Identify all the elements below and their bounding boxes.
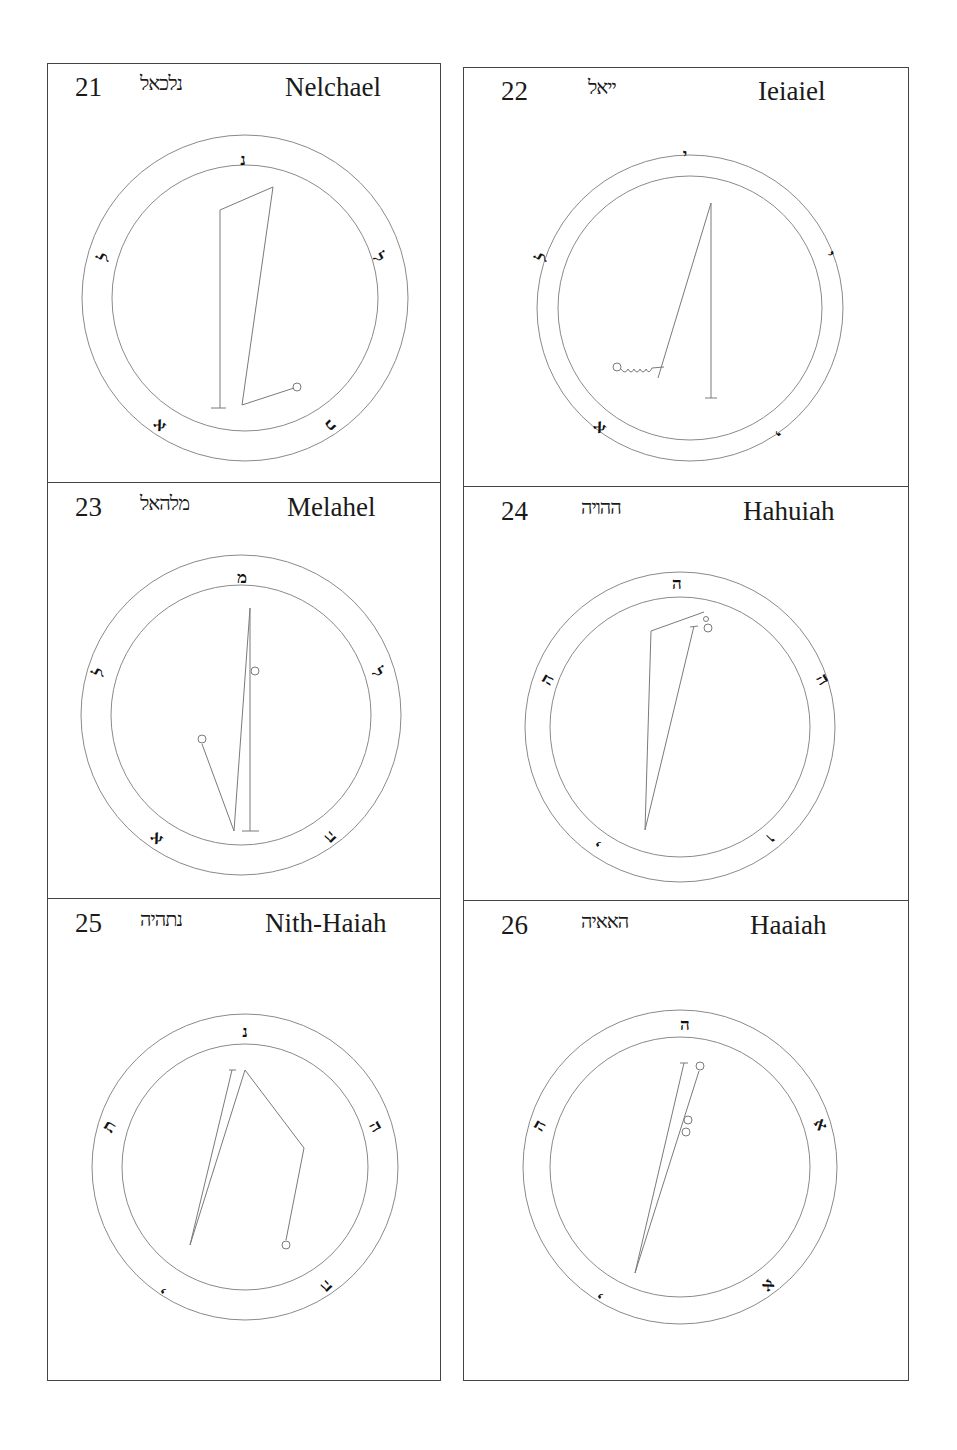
angel-number: 25 <box>75 908 102 939</box>
hebrew-name: מלהאל <box>140 491 189 515</box>
angel-name: Melahel <box>287 492 375 523</box>
angel-name: Ieiaiel <box>758 76 825 107</box>
hebrew-name: האאיה <box>581 909 628 933</box>
panel-header: 24 ההויה Hahuiah <box>463 487 909 537</box>
panel-header: 26 האאיה Haaiah <box>463 901 909 951</box>
angel-name: Haaiah <box>750 910 826 941</box>
hebrew-name: ההויה <box>581 495 621 519</box>
sigil-plate-page: 21 נלכאל Nelchael 22 ייאל Ieiaiel 23 מלה… <box>0 0 957 1450</box>
hebrew-name: נלכאל <box>140 71 182 95</box>
angel-number: 23 <box>75 492 102 523</box>
panel-header: 22 ייאל Ieiaiel <box>463 67 909 117</box>
panel-21: 21 נלכאל Nelchael <box>47 63 441 482</box>
panel-23: 23 מלהאל Melahel <box>47 482 441 898</box>
angel-number: 21 <box>75 72 102 103</box>
hebrew-name: נתהיה <box>140 907 182 931</box>
panel-24: 24 ההויה Hahuiah <box>463 486 909 900</box>
panel-22: 22 ייאל Ieiaiel <box>463 67 909 486</box>
panel-header: 21 נלכאל Nelchael <box>47 63 441 113</box>
panel-25: 25 נתהיה Nith-Haiah <box>47 898 441 1381</box>
panel-header: 25 נתהיה Nith-Haiah <box>47 899 441 949</box>
angel-name: Nith-Haiah <box>265 908 386 939</box>
angel-name: Nelchael <box>285 72 381 103</box>
angel-number: 22 <box>501 76 528 107</box>
hebrew-name: ייאל <box>588 75 616 99</box>
angel-number: 26 <box>501 910 528 941</box>
angel-number: 24 <box>501 496 528 527</box>
angel-name: Hahuiah <box>743 496 834 527</box>
panel-26: 26 האאיה Haaiah <box>463 900 909 1381</box>
panel-header: 23 מלהאל Melahel <box>47 483 441 533</box>
